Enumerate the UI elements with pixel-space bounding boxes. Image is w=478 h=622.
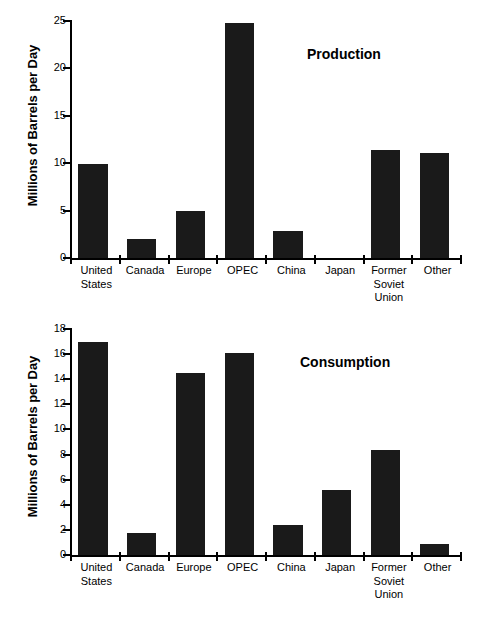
- x-axis-label-line: Other: [413, 561, 462, 575]
- x-axis-label-line: Europe: [170, 561, 219, 575]
- bar-consumption-0: [72, 329, 121, 555]
- bar-rect: [78, 342, 107, 555]
- plot-area-production: 0510152025: [70, 21, 460, 258]
- x-axis-label-production-6: FormerSovietUnion: [365, 264, 414, 305]
- bar-group-consumption: [72, 329, 460, 555]
- y-tick-label: 6: [60, 473, 66, 485]
- x-axis-label-line: United: [72, 264, 121, 278]
- bar-production-5: [316, 21, 365, 258]
- x-axis-label-line: States: [72, 575, 121, 589]
- x-axis-label-line: Former: [365, 264, 414, 278]
- bar-consumption-1: [121, 329, 170, 555]
- bar-rect: [225, 23, 254, 258]
- bar-production-4: [267, 21, 316, 258]
- x-axis-label-production-0: UnitedStates: [72, 264, 121, 291]
- bar-rect: [322, 490, 351, 555]
- x-axis-label-line: Europe: [170, 264, 219, 278]
- y-tick-label: 25: [54, 14, 66, 26]
- bar-consumption-6: [365, 329, 414, 555]
- x-axis-label-consumption-4: China: [267, 561, 316, 575]
- y-tick-label: 15: [54, 109, 66, 121]
- x-axis-label-line: Canada: [121, 561, 170, 575]
- y-tick-label: 10: [54, 422, 66, 434]
- x-axis-label-consumption-6: FormerSovietUnion: [365, 561, 414, 602]
- x-axis-label-production-7: Other: [413, 264, 462, 278]
- x-axis-label-line: OPEC: [218, 264, 267, 278]
- bar-consumption-5: [316, 329, 365, 555]
- bar-production-3: [218, 21, 267, 258]
- x-axis-label-line: Other: [413, 264, 462, 278]
- x-axis-label-production-3: OPEC: [218, 264, 267, 278]
- y-tick-label: 4: [60, 498, 66, 510]
- bar-consumption-4: [267, 329, 316, 555]
- x-axis-label-consumption-2: Europe: [170, 561, 219, 575]
- x-axis-label-consumption-1: Canada: [121, 561, 170, 575]
- x-axis-label-line: United: [72, 561, 121, 575]
- bar-production-6: [365, 21, 414, 258]
- bar-rect: [273, 525, 302, 555]
- y-tick-label: 5: [60, 204, 66, 216]
- plot-area-consumption: 024681012141618: [70, 329, 460, 555]
- x-axis-label-line: Canada: [121, 264, 170, 278]
- x-axis-label-production-1: Canada: [121, 264, 170, 278]
- x-axis-label-line: Japan: [316, 264, 365, 278]
- x-axis-label-line: OPEC: [218, 561, 267, 575]
- y-tick-label: 12: [54, 397, 66, 409]
- bar-rect: [176, 373, 205, 555]
- bar-rect: [420, 153, 449, 258]
- x-axis-label-consumption-3: OPEC: [218, 561, 267, 575]
- bar-rect: [127, 239, 156, 258]
- y-tick-label: 10: [54, 156, 66, 168]
- bar-rect: [371, 150, 400, 258]
- x-axis-label-line: Japan: [316, 561, 365, 575]
- bar-production-2: [170, 21, 219, 258]
- figure-root: Millions of Barrels per Day Production 0…: [0, 0, 478, 622]
- x-axis-label-production-4: China: [267, 264, 316, 278]
- bar-consumption-2: [170, 329, 219, 555]
- y-tick-label: 18: [54, 322, 66, 334]
- x-axis-label-line: China: [267, 561, 316, 575]
- bar-group-production: [72, 21, 460, 258]
- x-axis-label-line: Former: [365, 561, 414, 575]
- x-axis-label-consumption-0: UnitedStates: [72, 561, 121, 588]
- bar-rect: [127, 533, 156, 555]
- x-axis-label-line: China: [267, 264, 316, 278]
- bar-rect: [371, 450, 400, 555]
- bar-rect: [420, 544, 449, 555]
- bar-consumption-3: [218, 329, 267, 555]
- x-axis-label-line: Soviet: [365, 575, 414, 589]
- bar-production-1: [121, 21, 170, 258]
- y-axis-title-consumption: Millions of Barrels per Day: [25, 312, 40, 562]
- chart-panel-production: Millions of Barrels per Day Production 0…: [0, 0, 478, 311]
- x-axis-label-line: Soviet: [365, 278, 414, 292]
- y-tick-label: 20: [54, 61, 66, 73]
- y-tick-label: 0: [60, 548, 66, 560]
- x-axis-label-line: States: [72, 278, 121, 292]
- y-tick-label: 2: [60, 523, 66, 535]
- bar-rect: [176, 211, 205, 258]
- bar-rect: [225, 353, 254, 555]
- bar-consumption-7: [413, 329, 462, 555]
- x-axis-label-consumption-7: Other: [413, 561, 462, 575]
- y-tick-label: 8: [60, 448, 66, 460]
- x-axis-label-consumption-5: Japan: [316, 561, 365, 575]
- bar-production-0: [72, 21, 121, 258]
- x-axis-label-production-5: Japan: [316, 264, 365, 278]
- y-tick-label: 14: [54, 372, 66, 384]
- y-tick-label: 16: [54, 347, 66, 359]
- x-axis-label-line: Union: [365, 588, 414, 602]
- x-axis-label-production-2: Europe: [170, 264, 219, 278]
- y-tick-label: 0: [60, 251, 66, 263]
- bar-rect: [78, 164, 107, 258]
- y-axis-title-production: Millions of Barrels per Day: [25, 1, 40, 251]
- bar-production-7: [413, 21, 462, 258]
- bar-rect: [273, 231, 302, 258]
- x-axis-label-line: Union: [365, 291, 414, 305]
